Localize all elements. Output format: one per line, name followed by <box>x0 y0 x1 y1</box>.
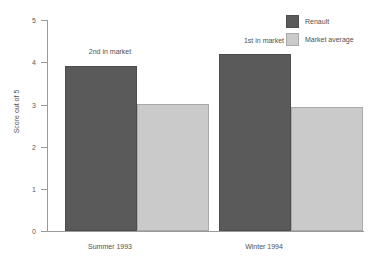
y-tick-label-3: 3 <box>6 102 36 109</box>
bar-market-average-winter-1994[interactable] <box>291 107 363 231</box>
bar-renault-summer-1993[interactable] <box>65 66 137 231</box>
legend-item-market-average[interactable]: Market average <box>286 30 354 48</box>
bar-chart: Score out of 5 5 4 3 2 1 0 2nd in market… <box>0 0 380 275</box>
legend-label-market-average: Market average <box>305 36 354 43</box>
y-tick-label-0: 0 <box>6 228 36 235</box>
y-tick-label-5: 5 <box>6 17 36 24</box>
y-tick-0 <box>41 231 47 232</box>
legend-swatch-market-average-icon <box>286 33 299 46</box>
y-tick-label-1: 1 <box>6 186 36 193</box>
x-tick-label-winter-1994: Winter 1994 <box>219 243 309 250</box>
y-tick-label-4: 4 <box>6 59 36 66</box>
x-axis-line <box>47 231 364 232</box>
bar-market-average-summer-1993[interactable] <box>137 104 209 231</box>
x-tick-label-summer-1993: Summer 1993 <box>65 243 155 250</box>
bar-renault-winter-1994[interactable] <box>219 54 291 231</box>
legend: Renault Market average <box>286 12 354 48</box>
legend-item-renault[interactable]: Renault <box>286 12 354 30</box>
legend-label-renault: Renault <box>305 18 329 25</box>
legend-swatch-renault-icon <box>286 15 299 28</box>
y-axis-title: Score out of 5 <box>13 52 20 172</box>
y-tick-label-2: 2 <box>6 144 36 151</box>
annotation-summer-1993: 2nd in market <box>65 48 155 55</box>
